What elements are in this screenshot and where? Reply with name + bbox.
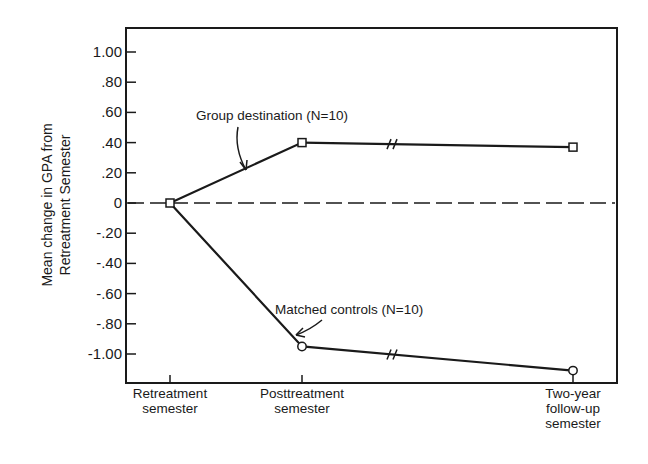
x-category-label: Two-year xyxy=(545,386,601,401)
square-marker xyxy=(569,143,577,151)
y-tick-label: .40 xyxy=(101,134,122,151)
x-category-label: Posttreatment xyxy=(260,386,344,401)
annotation-group-destination: Group destination (N=10) xyxy=(196,108,348,123)
y-tick-label: -.60 xyxy=(96,285,122,302)
y-tick-label: -.20 xyxy=(96,224,122,241)
y-tick-label: .20 xyxy=(101,164,122,181)
series-line xyxy=(170,203,573,371)
y-tick-label: .80 xyxy=(101,73,122,90)
x-category-label: follow-up xyxy=(546,401,600,416)
annotation-arrow-controls xyxy=(296,320,322,335)
plot-frame xyxy=(126,28,617,383)
x-category-label: semester xyxy=(274,401,330,416)
annotation-matched-controls: Matched controls (N=10) xyxy=(275,302,423,317)
y-tick-label: -1.00 xyxy=(88,345,122,362)
series-line xyxy=(170,143,573,203)
y-tick-label: -.80 xyxy=(96,315,122,332)
y-axis-label: Mean change in GPA from Retreatment Seme… xyxy=(39,123,73,286)
x-category-label: semester xyxy=(545,416,601,431)
square-marker xyxy=(298,139,306,147)
y-tick-label: 0 xyxy=(114,194,122,211)
origin-marker xyxy=(166,199,174,207)
x-category-labels: RetreatmentsemesterPosttreatmentsemester… xyxy=(133,386,601,431)
circle-marker xyxy=(569,366,577,374)
y-tick-label: .60 xyxy=(101,103,122,120)
y-tick-label: 1.00 xyxy=(93,43,122,60)
x-category-label: semester xyxy=(142,401,198,416)
x-category-label: Retreatment xyxy=(133,386,208,401)
x-axis xyxy=(170,375,573,383)
chart-canvas: 1.00.80.60.40.200-.20-.40-.60-.80-1.00 M… xyxy=(0,0,648,464)
y-tick-label: -.40 xyxy=(96,254,122,271)
svg-text:Retreatment Semester: Retreatment Semester xyxy=(57,134,73,275)
svg-text:Mean change in GPA from: Mean change in GPA from xyxy=(39,123,55,286)
series-lines xyxy=(166,139,577,375)
circle-marker xyxy=(298,342,306,350)
